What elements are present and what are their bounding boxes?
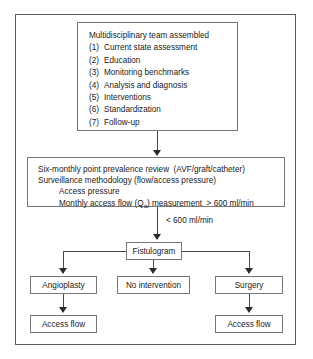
connector-surgery-to-access-flow xyxy=(249,294,250,307)
surveillance-line-3: Access pressure xyxy=(38,186,284,197)
team-item-1: (1) Current state assessment xyxy=(89,42,237,54)
arrowhead-branch-to-angioplasty xyxy=(59,268,67,274)
box-multidisciplinary-team: Multidisciplinary team assembled (1) Cur… xyxy=(77,22,238,131)
connector-fistulogram-to-left-branch xyxy=(63,251,126,252)
team-item-5-label: Interventions xyxy=(104,92,151,104)
team-item-2: (2) Education xyxy=(89,55,237,67)
box-no-intervention: No intervention xyxy=(117,276,190,294)
team-item-2-number: (2) xyxy=(89,55,104,67)
team-item-4-label: Analysis and diagnosis xyxy=(104,80,187,92)
connector-surveillance-to-fistulogram xyxy=(157,207,158,234)
team-item-2-label: Education xyxy=(104,55,140,67)
surveillance-qa-subscript: a xyxy=(144,203,147,209)
access-flow-right-label: Access flow xyxy=(227,320,270,329)
fistulogram-label: Fistulogram xyxy=(133,247,176,256)
team-item-7: (7) Follow-up xyxy=(89,117,237,129)
team-item-4: (4) Analysis and diagnosis xyxy=(89,80,237,92)
connector-fistulogram-to-right-branch xyxy=(182,251,249,252)
team-item-6-label: Standardization xyxy=(104,104,161,116)
box-surveillance-protocol: Six-monthly point prevalence review (AVF… xyxy=(27,157,285,207)
team-item-1-number: (1) xyxy=(89,42,104,54)
box-access-flow-left: Access flow xyxy=(30,315,97,333)
connector-branch-to-surgery xyxy=(249,251,250,268)
team-item-7-number: (7) xyxy=(89,117,104,129)
surgery-label: Surgery xyxy=(235,281,264,290)
surveillance-line-4-prefix: Monthly access flow (Q xyxy=(59,199,144,208)
connector-angioplasty-to-access-flow xyxy=(63,294,64,307)
box-angioplasty: Angioplasty xyxy=(30,276,97,294)
edge-label-threshold: < 600 ml/min xyxy=(166,216,213,225)
team-item-5: (5) Interventions xyxy=(89,92,237,104)
arrowhead-angioplasty-to-access-flow xyxy=(59,307,67,313)
flowchart-figure: Multidisciplinary team assembled (1) Cur… xyxy=(0,0,313,359)
arrowhead-team-to-surveillance xyxy=(153,150,161,156)
arrowhead-branch-to-surgery xyxy=(245,268,253,274)
box-fistulogram: Fistulogram xyxy=(126,242,182,260)
team-item-3: (3) Monitoring benchmarks xyxy=(89,67,237,79)
team-item-4-number: (4) xyxy=(89,80,104,92)
arrowhead-fistulogram-to-no-intervention xyxy=(149,268,157,274)
surveillance-line-4: Monthly access flow (Qa) measurement > 6… xyxy=(38,198,284,210)
team-item-3-number: (3) xyxy=(89,67,104,79)
team-item-6: (6) Standardization xyxy=(89,104,237,116)
team-heading: Multidisciplinary team assembled xyxy=(89,30,237,42)
team-item-3-label: Monitoring benchmarks xyxy=(104,67,189,79)
box-access-flow-right: Access flow xyxy=(215,315,283,333)
team-item-1-label: Current state assessment xyxy=(104,42,197,54)
surveillance-line-2: Surveillance methodology (flow/access pr… xyxy=(38,175,284,186)
arrowhead-surgery-to-access-flow xyxy=(245,307,253,313)
team-item-6-number: (6) xyxy=(89,104,104,116)
angioplasty-label: Angioplasty xyxy=(42,281,84,290)
no-intervention-label: No intervention xyxy=(126,281,181,290)
team-item-5-number: (5) xyxy=(89,92,104,104)
connector-fistulogram-to-no-intervention xyxy=(153,260,154,268)
box-surgery: Surgery xyxy=(215,276,283,294)
team-item-7-label: Follow-up xyxy=(104,117,140,129)
access-flow-left-label: Access flow xyxy=(42,320,85,329)
arrowhead-surveillance-to-fistulogram xyxy=(153,234,161,240)
connector-branch-to-angioplasty xyxy=(63,251,64,268)
surveillance-line-4-suffix: ) measurement > 600 ml/min xyxy=(147,199,254,208)
surveillance-line-1: Six-monthly point prevalence review (AVF… xyxy=(38,164,284,175)
